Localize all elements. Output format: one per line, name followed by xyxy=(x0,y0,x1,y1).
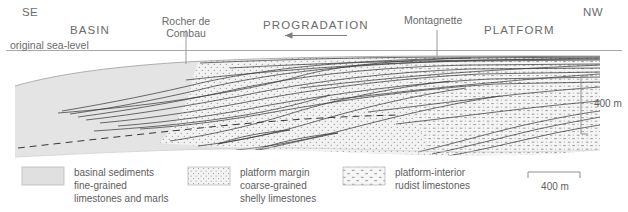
legend-interior-line2: rudist limestones xyxy=(395,179,470,192)
legend-swatch-platform-margin xyxy=(188,167,230,185)
legend-item-basinal-text: basinal sediments fine-grained limestone… xyxy=(74,166,168,206)
orientation-label-se: SE xyxy=(22,6,38,19)
legend-swatch-platform-interior xyxy=(343,167,385,185)
horizontal-scale-label: 400 m xyxy=(518,181,592,192)
orientation-label-nw: NW xyxy=(583,6,603,19)
locality-label-montagnette: Montagnette xyxy=(404,15,462,27)
legend-item-platform-interior-text: platform-interior rudist limestones xyxy=(395,166,470,192)
cross-section-figure: SE BASIN PLATFORM NW Rocher de Combau Mo… xyxy=(0,0,628,212)
legend-basinal-line3: limestones and marls xyxy=(74,192,168,205)
legend-interior-line1: platform-interior xyxy=(395,166,470,179)
locality-label-rocher-de-combau: Rocher de Combau xyxy=(152,16,220,40)
platform-label: PLATFORM xyxy=(484,24,555,37)
sea-level-label: original sea-level xyxy=(10,40,89,52)
legend-basinal-line2: fine-grained xyxy=(74,179,168,192)
legend-swatch-basinal xyxy=(22,167,64,185)
locality-label-line1: Rocher de xyxy=(152,16,220,28)
locality-label-line2: Combau xyxy=(152,28,220,40)
legend-margin-line3: shelly limestones xyxy=(240,192,316,205)
horizontal-scale-bar xyxy=(528,172,580,178)
legend-margin-line1: platform margin xyxy=(240,166,316,179)
progradation-label: PROGRADATION xyxy=(263,19,369,32)
legend-basinal-line1: basinal sediments xyxy=(74,166,168,179)
legend-margin-line2: coarse-grained xyxy=(240,179,316,192)
vertical-scale-label: 400 m xyxy=(594,98,622,109)
progradation-arrow xyxy=(285,32,347,38)
basin-label: BASIN xyxy=(70,24,110,37)
legend-item-platform-margin-text: platform margin coarse-grained shelly li… xyxy=(240,166,316,206)
